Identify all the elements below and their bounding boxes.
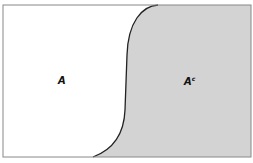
diagram-canvas [0, 0, 253, 163]
set-a-label: A [58, 75, 66, 86]
venn-diagram: A Ac [0, 0, 253, 163]
complement-region [93, 5, 251, 157]
complement-label: Ac [184, 75, 195, 87]
